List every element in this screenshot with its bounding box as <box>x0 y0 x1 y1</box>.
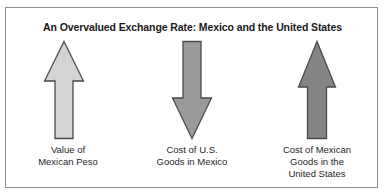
label-line: Cost of U.S. <box>130 144 254 156</box>
arrow-down-icon <box>170 40 214 140</box>
arrow-label-2: Cost of U.S. Goods in Mexico <box>130 144 254 168</box>
arrow-column-cost-of-us-goods-in-mexico: Cost of U.S. Goods in Mexico <box>130 40 254 180</box>
arrow-column-cost-of-mexican-goods-in-the-united-states: Cost of Mexican Goods in the United Stat… <box>255 40 379 180</box>
label-line: Goods in the <box>255 156 379 168</box>
figure-border-frame: An Overvalued Exchange Rate: Mexico and … <box>5 7 378 188</box>
arrow-column-value-of-mexican-peso: Value of Mexican Peso <box>6 40 130 180</box>
label-line: Cost of Mexican <box>255 144 379 156</box>
label-line: Mexican Peso <box>6 156 130 168</box>
arrow-up-icon <box>295 40 339 140</box>
figure-title: An Overvalued Exchange Rate: Mexico and … <box>6 21 379 33</box>
figure-root: An Overvalued Exchange Rate: Mexico and … <box>0 0 386 196</box>
label-line: United States <box>255 168 379 180</box>
arrow-up-icon <box>42 40 86 140</box>
label-line: Value of <box>6 144 130 156</box>
arrow-label-1: Value of Mexican Peso <box>6 144 130 168</box>
arrow-label-3: Cost of Mexican Goods in the United Stat… <box>255 144 379 180</box>
label-line: Goods in Mexico <box>130 156 254 168</box>
